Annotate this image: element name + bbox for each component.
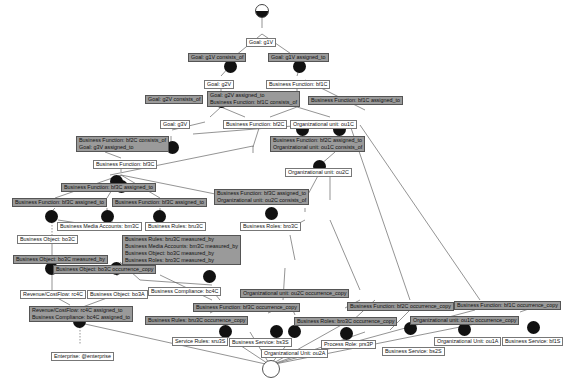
object-ou2c[interactable]: Organizational unit: ou2C bbox=[285, 168, 352, 177]
relation-g1v-assigned-to[interactable]: Goal: g1V assigned_to bbox=[268, 53, 329, 62]
object-prs3p[interactable]: Process Role: prs3P bbox=[321, 340, 376, 349]
relation-g1v-consists-of[interactable]: Goal: g1V consists_of bbox=[188, 53, 246, 62]
relation-bf3c-assigned-to[interactable]: Business Function: bf3C assigned_to bbox=[112, 198, 207, 207]
relation-line: Organizational unit: ou1C consists_of bbox=[273, 144, 362, 151]
relation-line: Business Rules: bru3C measured_by bbox=[125, 236, 238, 243]
relation-line: Business Function: bf2C assigned_to bbox=[273, 137, 362, 144]
relation-line: Business Compliance: bc4C assigned_to bbox=[32, 314, 130, 321]
object-bs1s[interactable]: Business Service: bf1S bbox=[502, 337, 563, 346]
object-rc4c[interactable]: Revenue/CostFlow: rc4C bbox=[20, 290, 86, 299]
relation-g2v-assigned-bf1c-consists[interactable]: Goal: g2V assigned_to Business Function:… bbox=[207, 91, 300, 107]
relation-bf3c-assigned-to[interactable]: Business Function: bf3C assigned_to bbox=[61, 183, 156, 192]
object-ou2a[interactable]: Organizational Unit: ou2A bbox=[261, 349, 328, 358]
relation-bf1c-assigned-to[interactable]: Business Function: bf1C assigned_to bbox=[308, 96, 403, 105]
relation-bf1c-occurrence-copy[interactable]: Business Function: bf1C occurrence_copy bbox=[454, 301, 561, 310]
relation-ou2c-occurrence-copy[interactable]: Organizational unit: ou2C occurrence_cop… bbox=[240, 289, 349, 298]
object-bf2c[interactable]: Business Function: bf2C bbox=[223, 120, 287, 129]
junction-node[interactable] bbox=[270, 325, 283, 338]
sink-node[interactable] bbox=[262, 360, 280, 378]
object-goal-g3v[interactable]: Goal: g3V bbox=[160, 120, 190, 129]
object-bf3c[interactable]: Business Function: bf3C bbox=[93, 160, 157, 169]
relation-line: Goal: g2V assigned_to bbox=[210, 92, 297, 99]
relation-line: Business Object: bo3C measured_by bbox=[125, 250, 238, 257]
relation-line: Business Function: bf2C consists_of bbox=[79, 137, 166, 144]
relation-bf2c-assigned-ou1c-consists[interactable]: Business Function: bf2C assigned_to Orga… bbox=[270, 136, 365, 152]
relation-bf3c-assigned-to[interactable]: Business Function: bf3C assigned_to bbox=[12, 198, 107, 207]
relation-g2v-consists-of[interactable]: Goal: g2V consists_of bbox=[145, 95, 203, 104]
relation-bro3c-occurrence-copy[interactable]: Business Roles: bro3C occurrence_copy bbox=[294, 317, 397, 326]
object-bf1c[interactable]: Business Function: bf1C bbox=[266, 80, 330, 89]
relation-bo3c-measured-by[interactable]: Business Object: bo3C measured_by bbox=[13, 255, 108, 264]
root-node[interactable] bbox=[255, 4, 269, 18]
relation-bf3c-assigned-ou2c-consists[interactable]: Business Function: bf3C assigned_to Orga… bbox=[214, 189, 309, 205]
relation-line: Business Function: bf1C consists_of bbox=[210, 99, 297, 106]
relation-line: Revenue/CostFlow: rc4C assigned_to bbox=[32, 307, 130, 314]
relation-measured-by-group[interactable]: Business Rules: bru3C measured_by Busine… bbox=[122, 235, 241, 265]
junction-node[interactable] bbox=[340, 327, 353, 340]
object-bs2s[interactable]: Business Service: bs2S bbox=[382, 347, 445, 356]
junction-node[interactable] bbox=[265, 207, 278, 220]
object-sru3s[interactable]: Service Rules: sru3S bbox=[172, 337, 228, 346]
object-goal-g2v[interactable]: Goal: g2V bbox=[204, 80, 234, 89]
object-bc4c[interactable]: Business Compliance: bc4C bbox=[148, 287, 221, 296]
object-bm3c[interactable]: Business Media Accounts: bm3C bbox=[57, 222, 142, 231]
relation-bru3c-occurrence-copy[interactable]: Business Rules: bru3C occurrence_copy bbox=[145, 316, 248, 325]
object-bru3c[interactable]: Business Rules: bru3C bbox=[145, 222, 206, 231]
relation-line: Goal: g3V assigned_to bbox=[79, 144, 166, 151]
object-bo3a[interactable]: Business Object: bo3A bbox=[87, 290, 148, 299]
relation-bf2c-consists-g3v-assigned[interactable]: Business Function: bf2C consists_of Goal… bbox=[76, 136, 169, 152]
relation-bf2c-occurrence-copy[interactable]: Business Function: bf2C occurrence_copy bbox=[347, 302, 454, 311]
relation-ou1c-occurrence-copy[interactable]: Organizational unit: ou1C occurrence_cop… bbox=[410, 316, 519, 325]
junction-node[interactable] bbox=[527, 321, 540, 334]
relation-line: Business Roles: bro3C measured_by bbox=[125, 257, 238, 264]
junction-node[interactable] bbox=[288, 325, 301, 338]
object-bs3s[interactable]: Business Service: bs3S bbox=[229, 338, 292, 347]
relation-bf3c-occurrence-copy[interactable]: Business Function: bf3C occurrence_copy bbox=[193, 303, 300, 312]
object-goal-g1v[interactable]: Goal: g1V bbox=[246, 38, 276, 47]
relation-line: Business Function: bf3C assigned_to bbox=[217, 190, 306, 197]
relation-rc4c-bc4c-assigned[interactable]: Revenue/CostFlow: rc4C assigned_to Busin… bbox=[29, 306, 133, 322]
object-bro3c[interactable]: Business Roles: bro3C bbox=[240, 222, 301, 231]
junction-node[interactable] bbox=[203, 270, 216, 283]
relation-bo3c-occurrence-copy[interactable]: Business Object: bo3C occurrence_copy bbox=[53, 265, 156, 274]
object-enterprise[interactable]: Enterprise: @enterprise bbox=[51, 352, 114, 361]
object-bo3c[interactable]: Business Object: bo3C bbox=[17, 235, 78, 244]
object-ou1a[interactable]: Organizational Unit: ou1A bbox=[434, 337, 501, 346]
object-ou1c[interactable]: Organizational unit: ou1C bbox=[290, 120, 357, 129]
relation-line: Business Media Accounts: bm3C measured_b… bbox=[125, 243, 238, 250]
relation-line: Organizational unit: ou2C consists_of bbox=[217, 197, 306, 204]
